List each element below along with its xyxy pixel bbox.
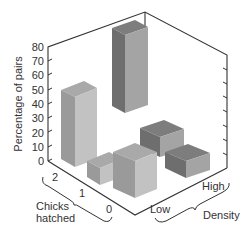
- chicks-tick-2: 2: [52, 171, 58, 183]
- y-tick-50: 50: [32, 84, 44, 96]
- y-tick-80: 80: [32, 41, 44, 53]
- y-tick-labels: 0 10 20 30 40 50 60 70 80: [32, 41, 44, 167]
- y-axis-title: Percentage of pairs: [12, 56, 24, 152]
- y-tick-70: 70: [32, 55, 44, 67]
- y-tick-0: 0: [38, 155, 44, 167]
- bar-high-2: [112, 20, 148, 113]
- y-tick-30: 30: [32, 112, 44, 124]
- y-tick-20: 20: [32, 127, 44, 139]
- y-tick-60: 60: [32, 69, 44, 81]
- density-high-label: High: [202, 180, 225, 192]
- density-axis-title: Density: [203, 209, 240, 221]
- y-tick-10: 10: [32, 141, 44, 153]
- chicks-label-line1: Chicks: [36, 200, 70, 212]
- chart-3d-bar: 0 10 20 30 40 50 60 70 80 Percentage of …: [0, 0, 251, 238]
- chicks-tick-1: 1: [79, 187, 85, 199]
- chicks-label-line2: hatched: [36, 212, 75, 224]
- bar-low-0: [113, 143, 157, 198]
- chicks-tick-0: 0: [106, 203, 112, 215]
- y-axis-ticks: [48, 59, 52, 161]
- right-axis-ticks: [223, 68, 227, 155]
- bar-low-2: [61, 81, 97, 167]
- density-low-label: Low: [150, 203, 170, 215]
- y-tick-40: 40: [32, 98, 44, 110]
